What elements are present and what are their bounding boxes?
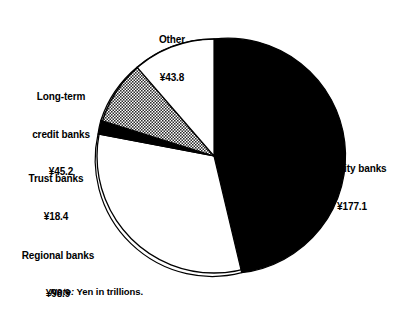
slice-label-regional-banks: Regional banks ¥98.9 [6, 225, 110, 317]
slice-label-other-name: Other [142, 34, 202, 47]
chart-note-keyword: Note: [50, 286, 74, 297]
slice-label-trust-banks-value: ¥18.4 [12, 211, 100, 224]
slice-label-long-term-credit-banks-name1: Long-term [18, 91, 104, 104]
slice-label-other-value: ¥43.8 [142, 72, 202, 85]
slice-label-city-banks-name: City banks [337, 163, 399, 176]
slice-label-city-banks-value: ¥177.1 [337, 201, 399, 214]
slice-label-long-term-credit-banks-name2: credit banks [18, 129, 104, 142]
pie-chart-figure: Other ¥43.8 City banks ¥177.1 Long-term … [0, 0, 399, 317]
chart-note-text: Yen in trillions. [74, 286, 143, 297]
chart-note: Note: Yen in trillions. [50, 286, 143, 297]
slice-label-city-banks: City banks ¥177.1 [337, 138, 399, 238]
slice-label-other: Other ¥43.8 [142, 9, 202, 109]
slice-label-trust-banks-name: Trust banks [12, 173, 100, 186]
slice-label-regional-banks-name: Regional banks [6, 250, 110, 263]
